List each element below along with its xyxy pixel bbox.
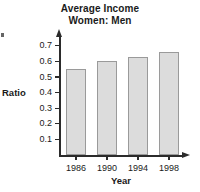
- y-tick-label: 0.1: [22, 135, 52, 144]
- chart-title-line-1: Average Income: [61, 3, 139, 14]
- x-tick-mark: [75, 156, 76, 160]
- bar-1994: [128, 57, 148, 155]
- x-tick-label-1998: 1998: [149, 163, 189, 173]
- x-axis-line: [59, 155, 183, 157]
- x-axis-title: Year: [59, 176, 183, 186]
- y-tick-mark: [55, 123, 60, 124]
- y-tick-mark: [55, 76, 60, 77]
- bar-1998: [159, 52, 179, 155]
- x-tick-mark: [168, 156, 169, 160]
- y-tick-mark: [55, 45, 60, 46]
- x-axis-arrow-icon: [182, 152, 190, 158]
- y-axis-arrow-icon: [56, 29, 62, 37]
- bar-1986: [66, 69, 86, 155]
- y-tick-label: 0.3: [22, 104, 52, 113]
- bar-1990: [97, 61, 117, 155]
- x-tick-mark: [137, 156, 138, 160]
- y-tick-mark: [55, 92, 60, 93]
- y-tick-label: 0.6: [22, 57, 52, 66]
- chart-title-line-2: Women: Men: [0, 15, 200, 27]
- y-tick-mark: [55, 61, 60, 62]
- y-tick-label: 0.4: [22, 88, 52, 97]
- y-tick-label: 0.5: [22, 73, 52, 82]
- chart-title: Average Income Women: Men: [0, 3, 200, 27]
- x-tick-mark: [106, 156, 107, 160]
- y-tick-label: 0.7: [22, 41, 52, 50]
- y-tick-mark: [55, 108, 60, 109]
- scan-artifact: [1, 33, 4, 37]
- bar-chart: Average Income Women: Men Ratio 0.70.60.…: [0, 0, 200, 192]
- y-tick-label: 0.2: [22, 119, 52, 128]
- y-tick-mark: [55, 139, 60, 140]
